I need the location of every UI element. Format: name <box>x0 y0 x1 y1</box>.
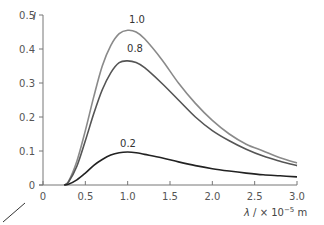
y-tick-label: 0.4 <box>19 44 35 55</box>
chart: 00.10.20.30.40.500.51.01.52.02.53.0 I λ … <box>0 0 324 225</box>
y-axis-title: I <box>33 11 36 22</box>
x-tick-label: 2.0 <box>204 191 220 202</box>
curve-label-1: 1.0 <box>129 14 145 25</box>
x-tick-label: 1.5 <box>162 191 178 202</box>
x-tick-label: 3.0 <box>289 191 305 202</box>
x-tick-label: 2.5 <box>247 191 263 202</box>
curve-label-2: 0.8 <box>127 43 143 54</box>
decorative-stroke <box>3 203 25 222</box>
curves <box>64 30 297 185</box>
x-tick-label: 0 <box>40 191 46 202</box>
curve-0.2 <box>64 152 297 185</box>
y-tick-label: 0.2 <box>19 112 35 123</box>
tick-labels: 00.10.20.30.40.500.51.01.52.02.53.0 <box>19 10 305 203</box>
curve-label-3: 0.2 <box>120 138 136 149</box>
y-tick-label: 0.1 <box>19 146 35 157</box>
x-tick-label: 1.0 <box>120 191 136 202</box>
y-tick-label: 0 <box>29 180 35 191</box>
y-tick-label: 0.3 <box>19 78 35 89</box>
x-axis-title: λ / × 10−5 m <box>243 206 307 218</box>
x-tick-label: 0.5 <box>77 191 93 202</box>
